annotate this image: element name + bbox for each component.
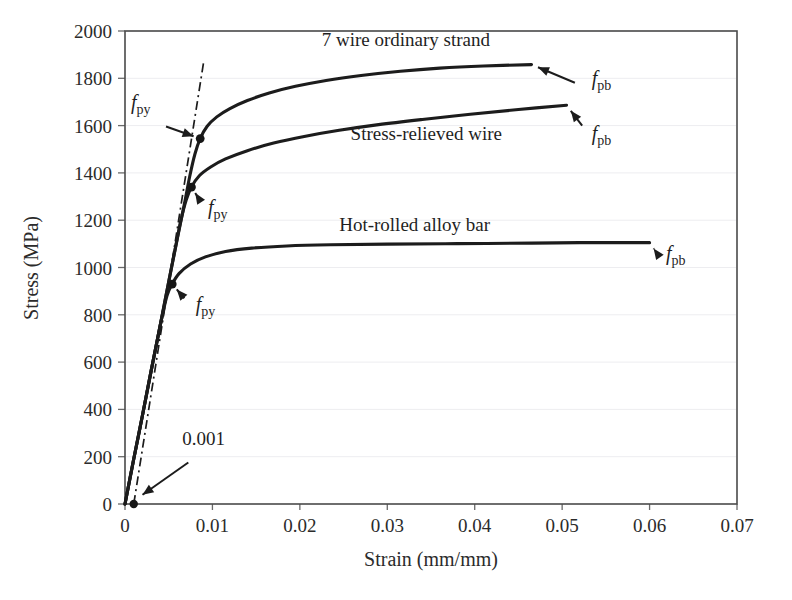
y-tick-label: 1600 (74, 116, 112, 137)
fpy-marker-2 (168, 280, 177, 289)
x-tick-label: 0.04 (458, 515, 492, 536)
y-tick-label: 800 (84, 305, 113, 326)
x-tick-label: 0.02 (283, 515, 316, 536)
fpy-marker-1 (187, 183, 196, 192)
y-tick-label: 2000 (74, 21, 112, 42)
y-tick-label: 1200 (74, 210, 112, 231)
x-tick-label: 0.06 (633, 515, 666, 536)
x-tick-label: 0 (120, 515, 130, 536)
x-tick-label: 0.07 (720, 515, 753, 536)
origin-offset-marker (130, 500, 138, 508)
x-tick-label: 0.05 (546, 515, 579, 536)
y-tick-label: 1800 (74, 68, 112, 89)
x-axis-title: Strain (mm/mm) (364, 548, 498, 571)
y-tick-label: 200 (84, 447, 113, 468)
y-tick-label: 0 (103, 494, 113, 515)
y-axis-title: Stress (MPa) (20, 216, 43, 320)
y-tick-label: 1400 (74, 163, 112, 184)
series-label-0: 7 wire ordinary strand (322, 29, 491, 50)
fpy-marker-0 (196, 134, 205, 143)
offset-line-label: 0.001 (182, 428, 225, 449)
series-label-2: Hot-rolled alloy bar (339, 214, 491, 235)
y-tick-label: 1000 (74, 258, 112, 279)
series-label-1: Stress-relieved wire (351, 123, 502, 144)
x-tick-label: 0.01 (196, 515, 229, 536)
y-tick-label: 600 (84, 352, 113, 373)
stress-strain-chart-figure: 00.010.020.030.040.050.060.07 0200400600… (0, 0, 792, 600)
chart-canvas: 00.010.020.030.040.050.060.07 0200400600… (0, 0, 792, 600)
chart-background (0, 0, 792, 600)
x-tick-label: 0.03 (371, 515, 404, 536)
offset-line-label-group: 0.001 (182, 428, 225, 449)
y-tick-label: 400 (84, 399, 113, 420)
